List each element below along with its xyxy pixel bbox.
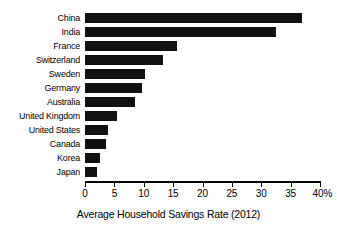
bar-row [85,67,321,81]
x-axis-tick-label: 10 [138,188,149,200]
bar-row [85,25,321,39]
x-axis-tick-labels: 0510152025303540% [0,188,337,202]
bar-row [85,151,321,165]
x-axis-tick-label: 40% [313,188,333,200]
x-axis-tick-label: 0 [82,188,87,200]
category-label: Switzerland [5,53,80,67]
x-axis-tick-label: 5 [112,188,117,200]
bar [85,139,106,149]
bar-row [85,109,321,123]
bar-row [85,137,321,151]
plot-area [85,11,321,181]
bar [85,13,302,23]
x-axis-tick [144,182,145,187]
bar-row [85,11,321,25]
bar [85,27,276,37]
category-label: Korea [5,151,80,165]
category-label: Sweden [5,67,80,81]
category-axis-labels: ChinaIndiaFranceSwitzerlandSwedenGermany… [0,11,80,181]
x-axis-ticks [85,182,321,187]
x-axis-tick-label: 35 [285,188,296,200]
category-label: France [5,39,80,53]
category-label: Canada [5,137,80,151]
x-axis-tick-label: 20 [197,188,208,200]
bar [85,55,163,65]
x-axis-tick [203,182,204,187]
bar [85,83,142,93]
category-label: United Kingdom [5,109,80,123]
bar [85,69,145,79]
category-label: China [5,11,80,25]
category-label: Australia [5,95,80,109]
bar [85,167,97,177]
bar-row [85,53,321,67]
bar [85,97,135,107]
x-axis-title: Average Household Savings Rate (2012) [0,208,337,220]
bar-row [85,123,321,137]
x-axis-tick [114,182,115,187]
category-label: Japan [5,165,80,179]
bar [85,153,100,163]
category-label: United States [5,123,80,137]
x-axis-tick-label: 15 [168,188,179,200]
x-axis-tick-label: 30 [256,188,267,200]
x-axis-tick [261,182,262,187]
category-label: India [5,25,80,39]
bar [85,41,177,51]
bar-row [85,81,321,95]
bar-row [85,39,321,53]
bar-row [85,95,321,109]
category-label: Germany [5,81,80,95]
x-axis-tick [320,182,321,187]
bar-chart: ChinaIndiaFranceSwitzerlandSwedenGermany… [0,0,337,241]
x-axis-tick-label: 25 [226,188,237,200]
bar [85,111,117,121]
x-axis-tick [85,182,86,187]
x-axis-tick [232,182,233,187]
bar-row [85,165,321,179]
x-axis-tick [173,182,174,187]
x-axis-tick [291,182,292,187]
bar [85,125,108,135]
